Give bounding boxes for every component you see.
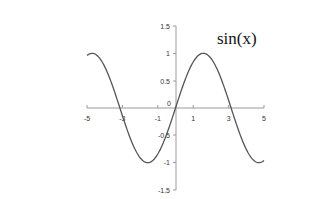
y-tick-label: -1.5 [158,187,170,194]
x-tick-label: 1 [191,115,195,122]
y-tick-label: -0.5 [158,132,170,139]
y-tick-label: 1.5 [160,23,170,30]
x-tick-label: 3 [227,115,231,122]
x-tick-labels: -5 -3 -1 1 3 5 [84,115,266,122]
x-tick-label: -1 [155,115,161,122]
y-tick-label: 1 [166,50,170,57]
chart-title: sin(x) [217,29,257,48]
sine-chart: 1.5 1 0.5 0 -0.5 -1 -1.5 -5 -3 -1 1 3 5 … [0,0,322,199]
x-tick-label: -5 [84,115,90,122]
y-tick-label: -1 [164,159,170,166]
y-tick-label: 0 [167,100,171,107]
x-tick-label: 5 [262,115,266,122]
y-tick-label: 0.5 [160,78,170,85]
